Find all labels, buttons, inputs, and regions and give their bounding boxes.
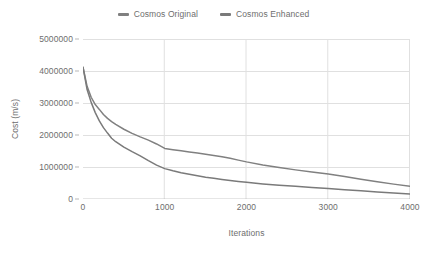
y-axis-tick-mark xyxy=(75,135,79,136)
y-axis-tick-mark xyxy=(75,103,79,104)
x-axis-tick-labels: 01000200030004000 xyxy=(83,202,410,216)
x-axis-tick-label: 3000 xyxy=(319,202,338,212)
plot-area xyxy=(83,39,410,199)
y-axis-tick-mark xyxy=(75,167,79,168)
y-axis-tick-label: 5000000 xyxy=(39,35,73,44)
legend-swatch-icon-original xyxy=(118,13,129,16)
y-axis-tick-label: 0 xyxy=(68,195,73,204)
chart-legend: Cosmos Original Cosmos Enhanced xyxy=(0,9,427,19)
y-axis-tick-label: 1000000 xyxy=(39,163,73,172)
legend-label-cosmos-enhanced: Cosmos Enhanced xyxy=(236,9,309,19)
y-axis-tick-label: 2000000 xyxy=(39,131,73,140)
y-axis-tick-labels: 010000002000000300000040000005000000 xyxy=(0,39,79,199)
y-axis-tick-label: 4000000 xyxy=(39,67,73,76)
x-axis-tick-label: 2000 xyxy=(237,202,256,212)
legend-item-cosmos-original[interactable]: Cosmos Original xyxy=(118,9,198,19)
legend-label-cosmos-original: Cosmos Original xyxy=(134,9,198,19)
x-axis-tick-label: 1000 xyxy=(155,202,174,212)
chart-container: Cosmos Original Cosmos Enhanced Cost (m/… xyxy=(0,0,427,254)
y-axis-tick-mark xyxy=(75,39,79,40)
legend-swatch-icon-enhanced xyxy=(220,13,231,16)
y-axis-tick-label: 3000000 xyxy=(39,99,73,108)
x-axis-tick-label: 0 xyxy=(81,202,86,212)
y-axis-tick-mark xyxy=(75,71,79,72)
x-axis-title: Iterations xyxy=(83,228,410,238)
x-axis-tick-label: 4000 xyxy=(400,202,419,212)
legend-item-cosmos-enhanced[interactable]: Cosmos Enhanced xyxy=(220,9,309,19)
y-axis-tick-mark xyxy=(75,199,79,200)
plot-svg xyxy=(83,39,410,199)
